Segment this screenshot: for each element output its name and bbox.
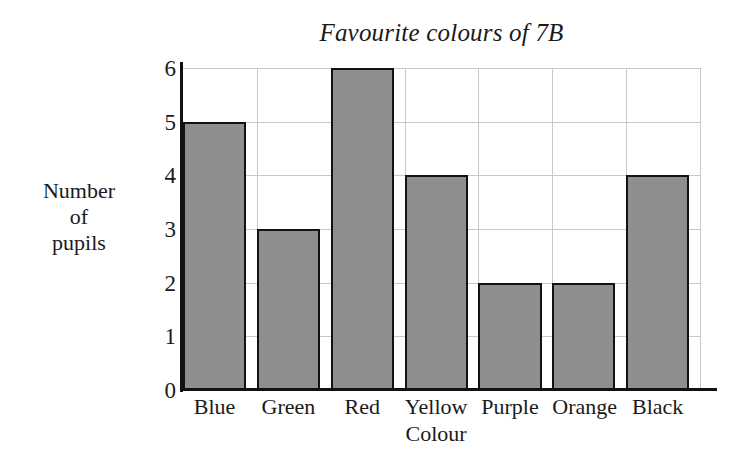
y-axis-tick-label: 0 <box>148 379 176 402</box>
y-axis-tick-label: 3 <box>148 218 176 241</box>
bar <box>626 175 689 390</box>
x-axis-tick-label: Orange <box>552 394 615 420</box>
plot-area <box>183 68 700 390</box>
bar <box>183 122 246 390</box>
x-axis-line <box>180 388 717 391</box>
x-axis-tick-label: Blue <box>183 394 246 420</box>
y-axis-label-line-3: pupils <box>14 230 144 256</box>
y-axis-tick-labels: 0123456 <box>140 68 176 390</box>
x-axis-tick-label: Red <box>331 394 394 420</box>
y-axis-line <box>180 62 183 392</box>
gridline-horizontal <box>183 122 700 123</box>
x-axis-tick-label: Purple <box>478 394 541 420</box>
x-axis-label-text: Colour <box>366 421 506 447</box>
x-axis-tick-label: Black <box>626 394 689 420</box>
y-axis-tick-label: 5 <box>148 111 176 134</box>
bar <box>478 283 541 390</box>
bar-chart-figure: Favourite colours of 7B Number of pupils… <box>0 0 744 464</box>
chart-title: Favourite colours of 7B <box>183 18 700 48</box>
y-axis-tick-label: 6 <box>148 57 176 80</box>
y-axis-tick-label: 4 <box>148 164 176 187</box>
bar <box>552 283 615 390</box>
y-axis-tick-label: 1 <box>148 325 176 348</box>
y-axis-label-line-1: Number <box>14 178 144 204</box>
y-axis-tick-label: 2 <box>148 272 176 295</box>
x-axis-tick-labels: BlueGreenRedYellowPurpleOrangeBlack <box>183 394 700 424</box>
bar <box>331 68 394 390</box>
y-axis-label-line-2: of <box>14 204 144 230</box>
bar <box>405 175 468 390</box>
bar <box>257 229 320 390</box>
x-axis-tick-label: Yellow <box>405 394 468 420</box>
x-axis-tick-label: Green <box>257 394 320 420</box>
gridline-horizontal <box>183 68 700 69</box>
y-axis-label: Number of pupils <box>14 178 144 256</box>
gridline-vertical <box>700 68 701 390</box>
